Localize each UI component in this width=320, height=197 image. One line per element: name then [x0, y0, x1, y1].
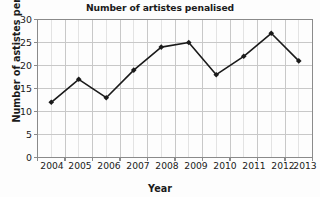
line-chart: Number of artistes penalised Number of a…	[0, 0, 320, 197]
axis-ticks	[34, 20, 313, 162]
plot-area	[0, 0, 320, 197]
